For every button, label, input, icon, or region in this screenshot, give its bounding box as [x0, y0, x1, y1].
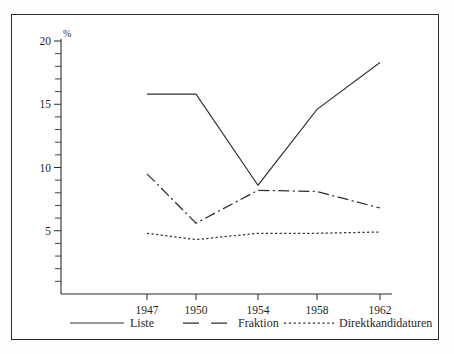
y-major-ticks [54, 41, 61, 231]
legend-label-fraktion: Fraktion [238, 316, 279, 330]
series-line-direktkandidaturen [147, 232, 380, 240]
line-chart: 5101520 19471950195419581962 % ListeFrak… [12, 15, 440, 341]
series-line-liste [147, 63, 380, 186]
plot-area: 5101520 19471950195419581962 % ListeFrak… [12, 15, 440, 341]
y-tick-label: 5 [45, 225, 51, 237]
y-tick-labels: 5101520 [40, 35, 52, 237]
series-line-fraktion [147, 174, 380, 223]
x-tick-label: 1947 [136, 304, 159, 316]
x-tick-label: 1954 [247, 304, 270, 316]
x-tick-labels: 19471950195419581962 [136, 304, 392, 316]
legend-label-direktkandidaturen: Direktkandidaturen [339, 316, 432, 330]
y-tick-label: 10 [40, 162, 52, 174]
chart-legend: ListeFraktionDirektkandidaturen [70, 316, 432, 330]
x-ticks [147, 294, 380, 300]
chart-page: 5101520 19471950195419581962 % ListeFrak… [0, 0, 454, 354]
chart-frame: 5101520 19471950195419581962 % ListeFrak… [11, 14, 439, 340]
legend-label-liste: Liste [130, 316, 154, 330]
y-tick-label: 15 [40, 98, 52, 110]
x-tick-label: 1962 [369, 304, 392, 316]
y-tick-label: 20 [40, 35, 52, 47]
axes [61, 39, 392, 294]
x-tick-label: 1950 [185, 304, 208, 316]
y-axis-unit-label: % [63, 28, 71, 39]
x-tick-label: 1958 [306, 304, 329, 316]
series-group [147, 63, 380, 240]
